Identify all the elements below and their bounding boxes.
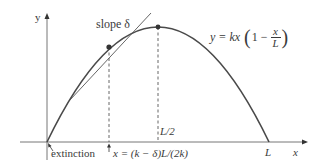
y-axis-label: y bbox=[35, 12, 41, 23]
tangent-x-label: x = (k − δ)L/(2k) bbox=[113, 148, 188, 159]
half-l-label: L/2 bbox=[160, 126, 175, 137]
y-axis-arrow-icon bbox=[45, 13, 50, 19]
slope-label: slope δ bbox=[96, 18, 130, 30]
equation-lhs: y = kx bbox=[210, 31, 240, 43]
equation-label: y = kx ( 1 − x L ) bbox=[210, 24, 288, 50]
x-axis-arrow-icon bbox=[302, 140, 308, 145]
peak-point bbox=[156, 25, 161, 30]
tangent-point bbox=[106, 44, 111, 49]
x-axis-label: x bbox=[293, 147, 298, 158]
equation-fraction: x L bbox=[271, 26, 281, 49]
equation-paren-one: 1 − bbox=[252, 31, 268, 43]
l-label: L bbox=[265, 147, 271, 158]
tangent-x-arrow-icon bbox=[107, 144, 111, 148]
extinction-label: extinction bbox=[51, 148, 95, 159]
